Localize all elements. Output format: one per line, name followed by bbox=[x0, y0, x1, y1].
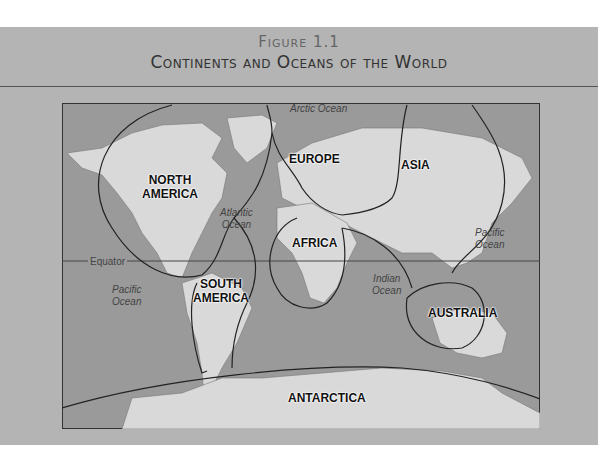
label-africa: AFRICA bbox=[292, 236, 337, 250]
label-europe: EUROPE bbox=[289, 152, 340, 166]
label-asia: ASIA bbox=[401, 158, 430, 172]
label-antarctica: ANTARCTICA bbox=[288, 391, 366, 405]
title-divider bbox=[0, 86, 598, 87]
figure-title: Continents and Oceans of the World bbox=[0, 52, 598, 72]
label-australia: AUSTRALIA bbox=[428, 306, 497, 320]
label-pacific-ocean-east: Pacific Ocean bbox=[475, 227, 504, 251]
label-pacific-ocean-west: Pacific Ocean bbox=[112, 284, 141, 308]
label-indian-ocean: Indian Ocean bbox=[372, 273, 401, 297]
label-equator: Equator bbox=[88, 256, 127, 268]
label-north-america: NORTH AMERICA bbox=[142, 173, 198, 201]
label-atlantic-ocean: Atlantic Ocean bbox=[220, 207, 253, 231]
figure-label: Figure 1.1 bbox=[0, 33, 598, 51]
label-south-america: SOUTH AMERICA bbox=[193, 277, 249, 305]
label-arctic-ocean: Arctic Ocean bbox=[290, 103, 347, 115]
